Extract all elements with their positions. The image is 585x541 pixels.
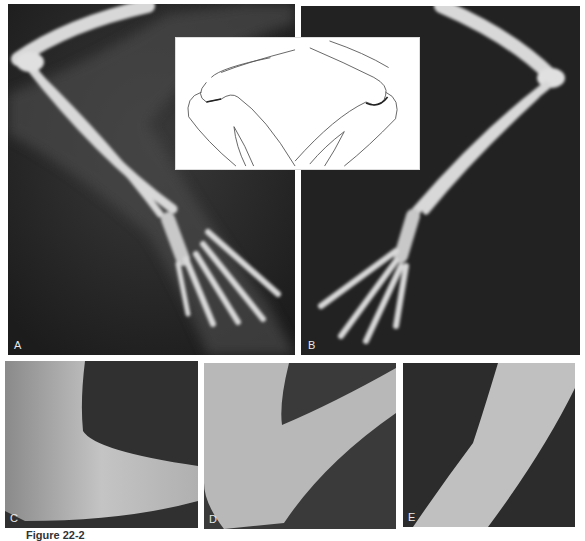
elbow-joint-drawing [176, 38, 419, 169]
panel-label-a: A [14, 339, 21, 351]
elbow-photo-e [403, 363, 575, 527]
panel-d-photo: D [204, 363, 396, 529]
elbow-diagram-inset [175, 37, 420, 170]
figure-caption: Figure 22-2 [26, 529, 85, 541]
panel-label-e: E [408, 511, 415, 523]
panel-label-d: D [209, 513, 217, 525]
panel-e-photo: E [403, 363, 575, 527]
elbow-photo-d [204, 363, 396, 529]
panel-label-b: B [308, 339, 315, 351]
panel-label-c: C [10, 512, 18, 524]
elbow-photo-c [5, 361, 198, 528]
panel-c-photo: C [5, 361, 198, 528]
